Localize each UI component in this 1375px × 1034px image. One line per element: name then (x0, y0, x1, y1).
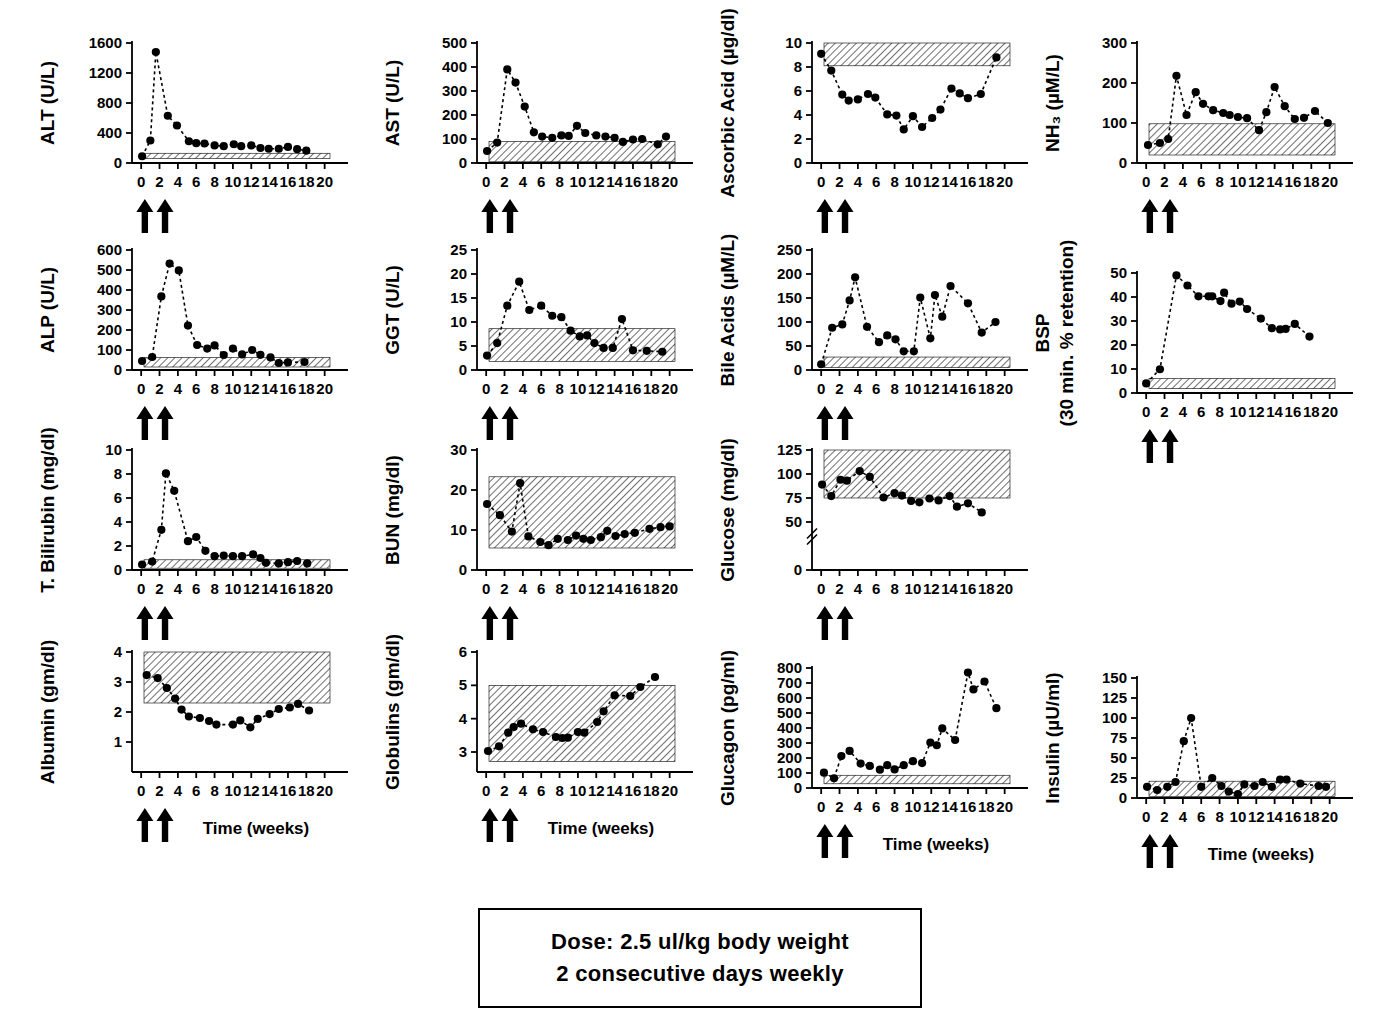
x-tick-label: 0 (817, 380, 825, 397)
figure-root: 04008001200160002468101214161820ALT (U/L… (0, 0, 1375, 1034)
y-tick-label: 0 (114, 154, 122, 171)
dose-arrow-icon (157, 808, 174, 842)
y-tick-label: 10 (105, 441, 122, 458)
data-point (516, 479, 524, 487)
data-point (900, 125, 908, 133)
data-point (592, 131, 600, 139)
data-point (1250, 782, 1258, 790)
data-point (284, 143, 292, 151)
x-tick-label: 20 (316, 782, 333, 799)
data-point (576, 332, 584, 340)
y-tick-label: 100 (1102, 709, 1127, 726)
x-tick-label: 2 (500, 782, 508, 799)
x-tick-label: 0 (482, 580, 490, 597)
data-point (857, 759, 865, 767)
svg-text:GGT (U/L): GGT (U/L) (382, 265, 403, 355)
data-point (1262, 108, 1270, 116)
data-point (157, 526, 165, 534)
data-point (926, 334, 934, 342)
data-point (883, 761, 891, 769)
data-point (1164, 135, 1172, 143)
svg-text:AST (U/L): AST (U/L) (382, 60, 403, 147)
x-tick-label: 4 (1179, 403, 1188, 420)
data-point (484, 747, 492, 755)
y-tick-label: 0 (794, 154, 802, 171)
y-tick-label: 0 (459, 154, 467, 171)
x-tick-label: 12 (588, 782, 605, 799)
y-tick-label: 0 (1119, 789, 1127, 806)
data-series (138, 469, 311, 568)
data-point (305, 706, 313, 714)
x-tick-label: 4 (854, 580, 863, 597)
data-point (1171, 778, 1179, 786)
data-point (969, 685, 977, 693)
data-point (820, 769, 828, 777)
x-tick-label: 16 (1285, 808, 1302, 825)
y-axis-label: ALT (U/L) (37, 61, 58, 145)
x-tick-label: 20 (1321, 808, 1338, 825)
data-point (236, 716, 244, 724)
data-point (493, 139, 501, 147)
dose-arrows (1141, 199, 1178, 233)
axes: 04008001200160002468101214161820 (89, 34, 348, 190)
data-point (931, 291, 939, 299)
y-tick-label: 75 (785, 489, 802, 506)
data-point (843, 477, 851, 485)
data-point (246, 723, 254, 731)
data-series (817, 273, 1000, 368)
svg-text:ALT (U/L): ALT (U/L) (37, 61, 58, 145)
panel-bun: 010203002468101214161820BUN (mg/dl) (355, 432, 711, 662)
data-point (510, 723, 518, 731)
data-point (1257, 315, 1265, 323)
x-tick-label: 16 (960, 798, 977, 815)
y-tick-label: 0 (794, 361, 802, 378)
data-point (597, 533, 605, 541)
data-point (1163, 783, 1171, 791)
y-tick-label: 2 (114, 703, 122, 720)
x-tick-label: 4 (174, 173, 183, 190)
dose-arrow-icon (136, 808, 153, 842)
dose-arrows (816, 606, 853, 640)
x-tick-label: 16 (960, 380, 977, 397)
x-tick-label: 12 (923, 173, 940, 190)
data-series (1142, 271, 1314, 387)
data-point (521, 103, 529, 111)
data-point (1208, 292, 1216, 300)
y-axis-label: AST (U/L) (382, 60, 403, 147)
y-tick-label: 150 (777, 289, 802, 306)
data-point (978, 328, 986, 336)
y-tick-label: 0 (114, 361, 122, 378)
data-point (1216, 297, 1224, 305)
data-point (203, 345, 211, 353)
data-point (817, 360, 825, 368)
y-axis-label: Albumin (gm/dl) (37, 640, 58, 785)
data-point (503, 302, 511, 310)
x-tick-label: 14 (606, 580, 623, 597)
data-point (992, 704, 1000, 712)
data-point (580, 729, 588, 737)
x-tick-label: 20 (661, 782, 678, 799)
x-tick-label: 14 (261, 782, 278, 799)
y-axis-label: Ascorbic Acid (µg/dl) (717, 8, 738, 198)
chart-alt: 04008001200160002468101214161820ALT (U/L… (10, 25, 366, 255)
data-point (1315, 782, 1323, 790)
data-point (900, 761, 908, 769)
data-point (517, 720, 525, 728)
x-tick-label: 6 (872, 173, 880, 190)
data-point (1220, 289, 1228, 297)
data-series (138, 260, 309, 368)
dose-arrow-icon (502, 199, 519, 233)
data-point (286, 703, 294, 711)
data-point (871, 94, 879, 102)
x-tick-label: 8 (210, 173, 218, 190)
x-tick-label: 16 (960, 580, 977, 597)
x-tick-label: 12 (1248, 403, 1265, 420)
x-tick-label: 12 (923, 380, 940, 397)
x-tick-label: 8 (890, 380, 898, 397)
x-tick-label: 16 (625, 580, 642, 597)
x-tick-label: 12 (588, 380, 605, 397)
y-tick-label: 6 (794, 82, 802, 99)
chart-glucagon: 0100200300400500600700800024681012141618… (690, 650, 1046, 880)
data-point (1259, 778, 1267, 786)
data-point (220, 552, 228, 560)
